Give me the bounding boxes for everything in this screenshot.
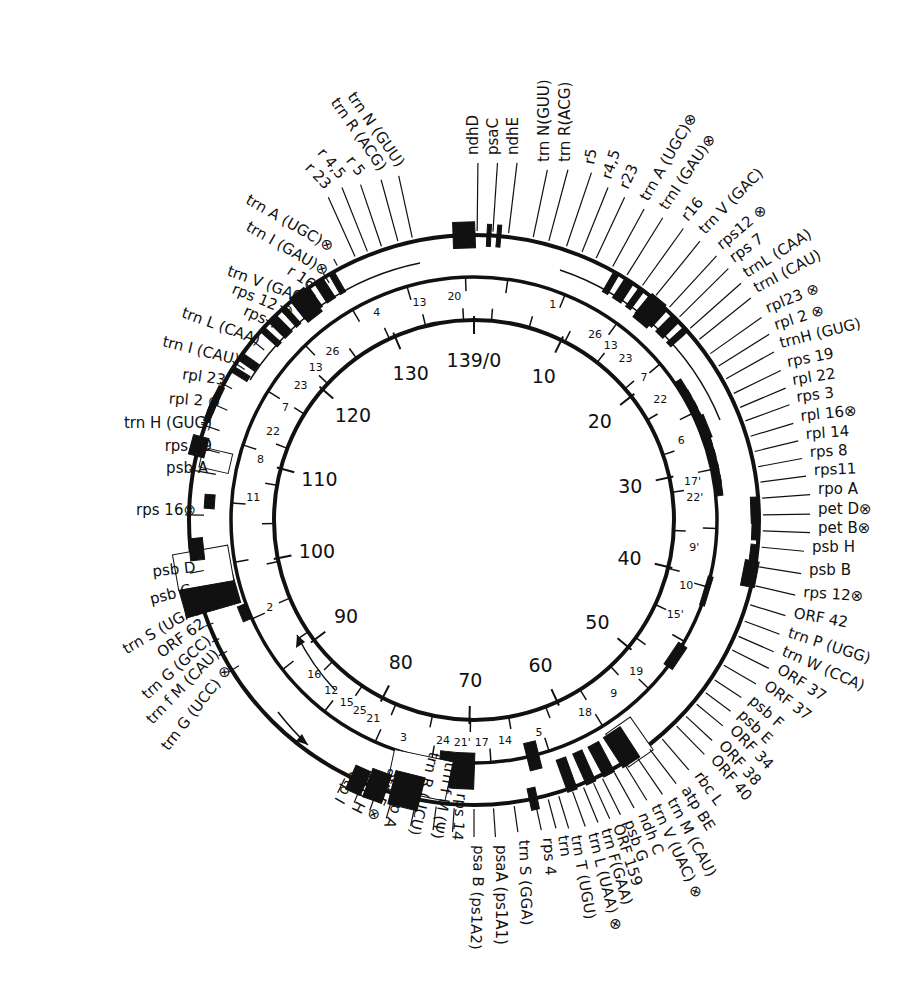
leader-line [761, 476, 807, 482]
fragment-label: 17' [684, 475, 701, 488]
coordinate-label: 139/0 [447, 349, 502, 371]
leader-line [381, 180, 398, 241]
leader-line [662, 739, 688, 770]
fragment-label: 9' [689, 541, 699, 554]
leader-line [750, 605, 785, 616]
leader-line [697, 704, 723, 726]
gene-block [740, 560, 759, 588]
leader-line [755, 586, 795, 595]
gene-label: rps 16⊗ [136, 501, 196, 519]
coordinate-label: 40 [617, 547, 641, 569]
fragment-label: 22 [266, 425, 280, 438]
gene-block [486, 224, 491, 246]
gene-label: trn R(ACG) [556, 82, 574, 162]
gene-label: rps11 [814, 460, 857, 479]
gene-label: psb H [812, 538, 855, 556]
gene-label: rps 12⊗ [803, 583, 864, 605]
coordinate-label: 70 [458, 669, 482, 691]
fragment-label: 26 [588, 328, 602, 341]
fragment-label: 22' [686, 491, 703, 504]
leader-line [361, 185, 382, 247]
gene-block [613, 279, 633, 303]
leader-line [643, 228, 684, 285]
coordinate-label: 130 [393, 362, 429, 384]
gene-label: rpl 23 [181, 365, 227, 389]
fragment-label: 18 [578, 706, 592, 719]
fragment-label: 8 [257, 453, 264, 466]
fragment-label: 9 [610, 687, 617, 700]
coordinate-ticks: 139/0102030405060708090100110120130 [232, 277, 717, 762]
gene-label: r5 [580, 147, 600, 166]
gene-block [238, 353, 259, 371]
leader-line [494, 808, 496, 837]
leader-line [759, 567, 801, 574]
coordinate-label: 50 [585, 611, 609, 633]
leader-line [699, 298, 750, 339]
leader-line [751, 423, 794, 436]
coordinate-label: 30 [618, 475, 642, 497]
leader-line [493, 163, 498, 232]
leader-line [559, 796, 569, 828]
coordinate-ring [274, 320, 674, 720]
leader-line [732, 650, 769, 668]
fragment-label: 26 [326, 345, 340, 358]
leader-line [650, 749, 676, 783]
gene-block [188, 537, 204, 560]
leader-line [755, 441, 798, 452]
gene-block [496, 225, 502, 247]
fragment-label: 23 [294, 379, 308, 392]
fragment-label: 7 [641, 371, 648, 384]
fragment-label: 1 [549, 298, 556, 311]
leader-line [514, 806, 518, 832]
gene-label: rpl 14 [805, 422, 850, 443]
fragment-label: 6 [678, 434, 685, 447]
leader-line [724, 665, 756, 684]
leader-line [342, 187, 367, 251]
fragment-label: 15 [340, 696, 354, 709]
gene-label: rpo A [818, 480, 859, 498]
gene-label: rps 19 [165, 437, 212, 455]
gene-label: trn S (GGA) [515, 840, 536, 926]
leader-line [548, 799, 556, 828]
gene-label: rps 4 [539, 837, 560, 876]
leader-line [656, 241, 700, 295]
fragment-label: 4 [373, 306, 380, 319]
gene-block [453, 222, 476, 249]
fragment-label: 15' [667, 608, 684, 621]
genome-map: 139/0102030405060708090100110120130 1320… [0, 0, 920, 1007]
fragment-label: 13 [604, 339, 618, 352]
gene-block [524, 741, 542, 771]
fragment-label: 7 [282, 401, 289, 414]
coordinate-label: 120 [335, 404, 371, 426]
gene-label: psb B [809, 561, 851, 579]
leader-line [334, 259, 337, 265]
gene-block [664, 642, 687, 669]
fragment-label: 22 [653, 393, 667, 406]
gene-label: psaC [484, 118, 502, 155]
gene-block [556, 757, 577, 792]
coordinate-label: 110 [301, 468, 337, 490]
gene-label: rpl 2 ⊗ [168, 389, 221, 411]
leader-line [509, 163, 517, 233]
leader-line [399, 176, 413, 238]
leader-line [549, 170, 568, 241]
leader-line [706, 693, 731, 712]
gene-label: pet B⊗ [818, 519, 870, 537]
leader-line [715, 680, 742, 698]
gene-label: trn H (GUG) [124, 414, 212, 432]
leader-line [763, 514, 810, 515]
coordinate-label: 90 [334, 605, 358, 627]
coordinate-label: 100 [299, 540, 335, 562]
gene-label: rpl 16⊗ [800, 401, 858, 425]
leader-line [533, 170, 547, 237]
leader-line [726, 352, 774, 379]
coordinate-label: 20 [588, 410, 612, 432]
leader-line [567, 173, 592, 247]
gene-label: trn N(GUU) [535, 79, 553, 162]
gene-label: rps 8 [809, 441, 848, 461]
gene-label: psaA (ps1A1) [492, 845, 510, 945]
leader-line [758, 458, 802, 466]
gene-label: psb A [166, 459, 209, 477]
gene-label: ndhE [504, 117, 522, 155]
gene-label: pet D⊗ [818, 500, 872, 518]
